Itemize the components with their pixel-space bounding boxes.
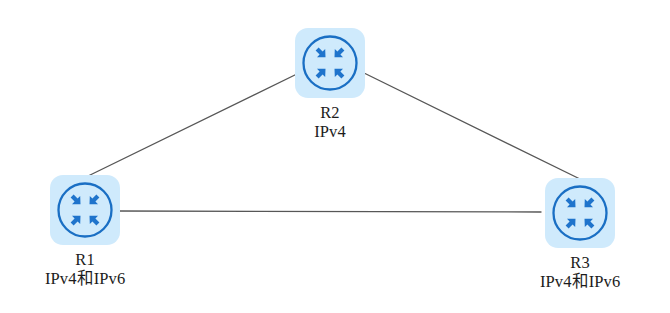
network-diagram: R2 IPv4 R1 IPv4和IPv6 bbox=[0, 0, 670, 313]
node-protocol: IPv4 bbox=[314, 122, 346, 141]
node-label-group: R1 IPv4和IPv6 bbox=[45, 250, 125, 289]
router-icon bbox=[50, 175, 120, 245]
node-name: R1 bbox=[45, 250, 125, 269]
link-r1-r3 bbox=[117, 211, 541, 212]
router-icon bbox=[295, 28, 365, 98]
node-label-group: R2 IPv4 bbox=[314, 103, 346, 142]
node-label-group: R3 IPv4和IPv6 bbox=[540, 253, 620, 292]
link-r1-r2 bbox=[84, 72, 301, 178]
node-name: R2 bbox=[314, 103, 346, 122]
node-name: R3 bbox=[540, 253, 620, 272]
network-node-r1[interactable]: R1 IPv4和IPv6 bbox=[45, 175, 125, 289]
network-node-r3[interactable]: R3 IPv4和IPv6 bbox=[540, 178, 620, 292]
node-protocol: IPv4和IPv6 bbox=[540, 272, 620, 291]
link-r2-r3 bbox=[362, 72, 582, 180]
node-protocol: IPv4和IPv6 bbox=[45, 269, 125, 288]
router-icon bbox=[545, 178, 615, 248]
network-node-r2[interactable]: R2 IPv4 bbox=[295, 28, 365, 142]
